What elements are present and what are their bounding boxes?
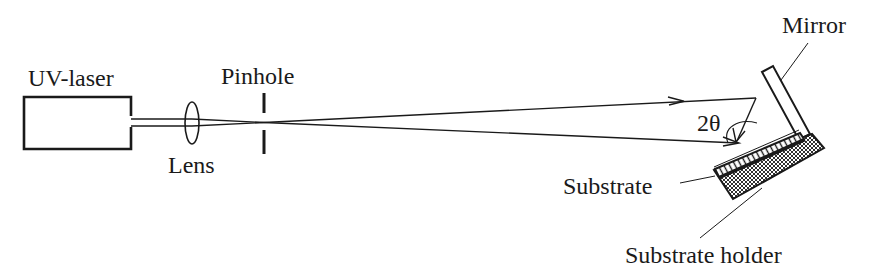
laser-beam: [131, 98, 756, 143]
label-substrate: Substrate: [563, 173, 652, 199]
label-angle: 2θ: [697, 110, 721, 136]
label-lens: Lens: [168, 152, 215, 178]
label-pinhole: Pinhole: [221, 63, 294, 89]
label-substrate-holder: Substrate holder: [625, 242, 782, 268]
diagram-canvas: UV-laser Lens Pinhole Mirror 2θ Substrat…: [0, 0, 883, 279]
label-uv-laser: UV-laser: [28, 65, 114, 91]
label-mirror: Mirror: [782, 12, 846, 38]
uv-laser: [24, 97, 131, 149]
lens: [185, 102, 199, 144]
mirror: [762, 66, 810, 140]
